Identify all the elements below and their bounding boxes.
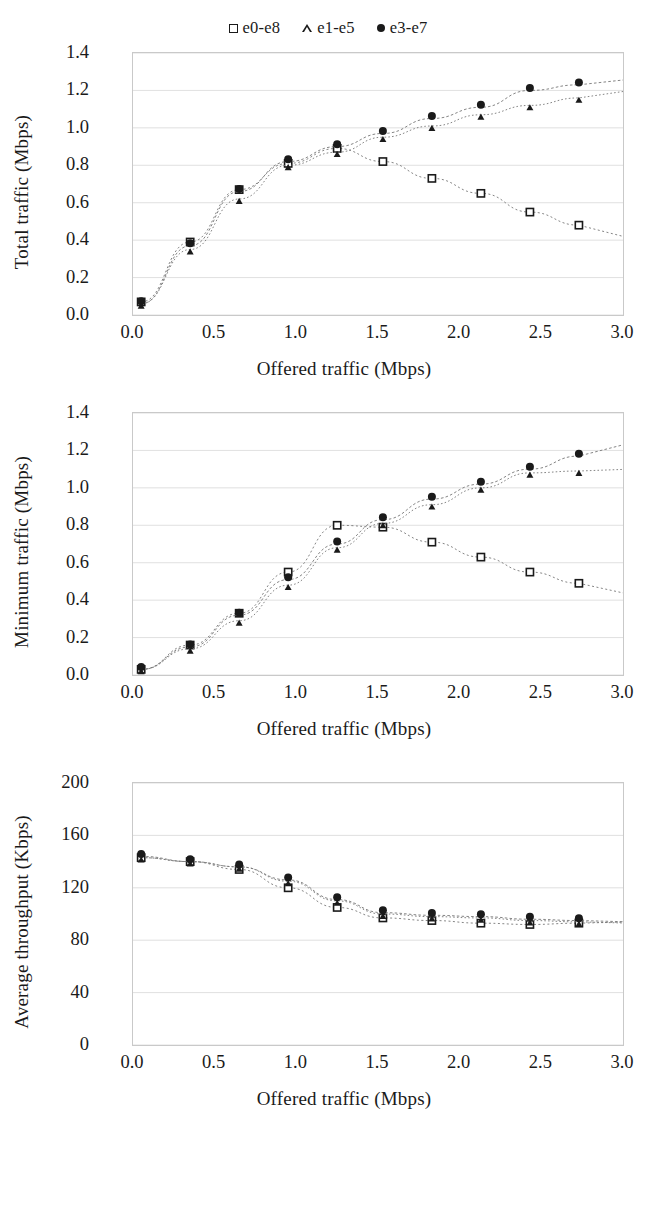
series-e3-e7-markers: [137, 78, 583, 305]
chart2-y-tick: 1.0: [66, 476, 89, 497]
chart1-y-tick: 0.8: [66, 154, 89, 175]
chart2-canvas: [133, 413, 623, 675]
square-marker-icon: [229, 24, 238, 33]
chart-total-traffic: Total traffic (Mbps) 0.00.20.40.60.81.01…: [0, 52, 656, 412]
chart1-y-tick: 1.4: [66, 42, 89, 63]
chart-minimum-traffic: Minimum traffic (Mbps) 0.00.20.40.60.81.…: [0, 412, 656, 782]
chart1-y-tick: 0.0: [66, 304, 89, 325]
chart3-y-tick: 40: [71, 981, 90, 1002]
chart2-x-ticks: 0.00.51.01.52.02.53.0: [132, 682, 622, 708]
chart1-x-tick: 2.5: [529, 322, 552, 343]
chart2-x-tick: 2.0: [447, 682, 470, 703]
chart2-y-tick: 0.6: [66, 551, 89, 572]
chart-legend: e0-e8 e1-e5 e3-e7: [0, 18, 656, 38]
chart2-y-axis-label: Minimum traffic (Mbps): [0, 416, 44, 688]
chart3-x-tick: 1.0: [284, 1052, 307, 1073]
chart2-plot-area: [132, 412, 624, 676]
chart3-x-tick: 2.5: [529, 1052, 552, 1073]
chart1-y-tick: 0.2: [66, 266, 89, 287]
legend-label-e3-e7: e3-e7: [390, 18, 428, 38]
chart1-x-tick: 0.0: [120, 322, 143, 343]
chart1-x-tick: 2.0: [447, 322, 470, 343]
chart3-x-tick: 0.0: [120, 1052, 143, 1073]
chart1-x-tick: 1.0: [284, 322, 307, 343]
legend-item-e1-e5: e1-e5: [302, 18, 355, 38]
chart1-x-axis-label: Offered traffic (Mbps): [44, 358, 644, 380]
legend-label-e0-e8: e0-e8: [243, 18, 281, 38]
chart3-x-ticks: 0.00.51.01.52.02.53.0: [132, 1052, 622, 1078]
chart3-canvas: [133, 783, 623, 1045]
chart3-x-axis-label: Offered traffic (Mbps): [44, 1088, 644, 1110]
chart1-plot-area: [132, 52, 624, 316]
chart1-y-tick: 1.0: [66, 116, 89, 137]
legend-item-e3-e7: e3-e7: [377, 18, 428, 38]
chart1-x-tick: 0.5: [202, 322, 225, 343]
chart1-y-axis-label: Total traffic (Mbps): [0, 56, 44, 328]
chart3-y-tick: 80: [71, 929, 90, 950]
chart2-x-tick: 1.5: [365, 682, 388, 703]
chart1-y-tick: 1.2: [66, 79, 89, 100]
series-e0-e8-markers: [138, 522, 583, 673]
chart2-x-tick: 2.5: [529, 682, 552, 703]
chart2-y-tick: 1.2: [66, 439, 89, 460]
chart3-x-tick: 2.0: [447, 1052, 470, 1073]
chart3-y-axis-label: Average throughput (Kbps): [0, 786, 44, 1058]
chart2-y-ticks: 0.00.20.40.60.81.01.21.4: [44, 412, 89, 674]
chart3-x-tick: 0.5: [202, 1052, 225, 1073]
chart2-y-tick: 0.0: [66, 664, 89, 685]
chart-average-throughput: Average throughput (Kbps) 04080120160200…: [0, 782, 656, 1202]
chart3-y-tick: 200: [61, 772, 89, 793]
series-e1-e5-markers: [138, 470, 583, 675]
legend-item-e0-e8: e0-e8: [229, 18, 281, 38]
chart1-y-tick: 0.6: [66, 191, 89, 212]
figure-page: e0-e8 e1-e5 e3-e7 Total traffic (Mbps) 0…: [0, 0, 656, 1205]
triangle-marker-icon: [302, 24, 312, 32]
circle-marker-icon: [377, 24, 385, 32]
chart3-y-tick: 0: [80, 1034, 89, 1055]
chart3-y-tick: 120: [61, 876, 89, 897]
chart1-x-tick: 3.0: [610, 322, 633, 343]
legend-label-e1-e5: e1-e5: [317, 18, 355, 38]
chart3-y-tick: 160: [61, 824, 89, 845]
chart2-y-tick: 0.4: [66, 589, 89, 610]
chart2-y-tick: 0.2: [66, 626, 89, 647]
chart3-y-ticks: 04080120160200: [44, 782, 89, 1044]
chart2-x-tick: 3.0: [610, 682, 633, 703]
series-e0-e8-markers: [138, 145, 583, 306]
chart2-y-tick: 1.4: [66, 402, 89, 423]
series-e3-e7-markers: [137, 850, 583, 922]
chart2-y-tick: 0.8: [66, 514, 89, 535]
chart3-x-tick: 1.5: [365, 1052, 388, 1073]
chart1-y-ticks: 0.00.20.40.60.81.01.21.4: [44, 52, 89, 314]
chart2-x-tick: 0.0: [120, 682, 143, 703]
chart2-x-axis-label: Offered traffic (Mbps): [44, 718, 644, 740]
chart1-canvas: [133, 53, 623, 315]
series-e1-e5-markers: [138, 856, 583, 926]
chart2-x-tick: 0.5: [202, 682, 225, 703]
chart3-x-tick: 3.0: [610, 1052, 633, 1073]
chart1-x-tick: 1.5: [365, 322, 388, 343]
chart1-x-ticks: 0.00.51.01.52.02.53.0: [132, 322, 622, 348]
chart2-x-tick: 1.0: [284, 682, 307, 703]
chart3-plot-area: [132, 782, 624, 1046]
chart1-y-tick: 0.4: [66, 229, 89, 250]
series-e0-e8-markers: [138, 854, 583, 928]
